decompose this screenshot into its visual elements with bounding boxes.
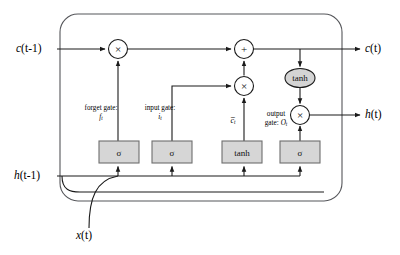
output-tanh-glyph: tanh: [292, 73, 308, 83]
cell-state-input-label: c(t-1): [16, 42, 42, 54]
input-gate-box[interactable]: σ: [152, 141, 192, 163]
candidate-tanh-box[interactable]: tanh: [222, 141, 262, 163]
input-xt-label: x(t): [76, 229, 92, 241]
candidate-label: c̅t: [222, 116, 244, 126]
cell-state-output-label: c(t): [365, 42, 381, 54]
forget-multiply-node[interactable]: ×: [109, 40, 128, 59]
hidden-state-input-arg: (t-1): [20, 169, 40, 181]
cell-state-input-arg: (t-1): [21, 42, 41, 54]
hidden-state-input-label: h(t-1): [14, 169, 40, 181]
output-gate-label-line1: output: [255, 110, 297, 119]
output-gate-box[interactable]: σ: [280, 141, 320, 163]
input-gate-box-glyph: σ: [170, 148, 175, 158]
forget-gate-label-line1: forget gate:: [77, 104, 125, 113]
forget-gate-label-symbol: ft: [77, 113, 125, 122]
input-multiply-node[interactable]: ×: [235, 77, 254, 96]
input-gate-label: input gate: it: [137, 104, 183, 122]
forget-gate-box-glyph: σ: [117, 148, 122, 158]
forget-gate-box[interactable]: σ: [99, 141, 139, 163]
cell-add-glyph: +: [241, 43, 247, 55]
output-gate-label: output gate:Ot: [255, 110, 297, 128]
input-xt-curve-wire: [89, 176, 118, 228]
forget-multiply-glyph: ×: [115, 43, 121, 55]
input-multiply-glyph: ×: [241, 80, 247, 92]
output-gate-box-glyph: σ: [298, 148, 303, 158]
hidden-state-output-arg: (t): [371, 108, 382, 120]
lstm-diagram-svg: σ σ tanh σ × + × tanh: [0, 0, 400, 255]
hidden-state-output-label: h(t): [365, 108, 382, 120]
cell-state-output-arg: (t): [370, 42, 381, 54]
output-multiply-glyph: ×: [297, 109, 303, 121]
input-gate-label-symbol: it: [137, 113, 183, 122]
input-xt-arg: (t): [81, 229, 92, 241]
cell-add-node[interactable]: +: [235, 40, 254, 59]
lstm-diagram-canvas: σ σ tanh σ × + × tanh: [0, 0, 400, 255]
output-tanh-node[interactable]: tanh: [285, 69, 315, 88]
candidate-label-symbol: c̅t: [222, 116, 244, 126]
forget-gate-label: forget gate: ft: [77, 104, 125, 122]
output-gate-label-line2: gate:Ot: [255, 119, 297, 128]
input-gate-label-line1: input gate:: [137, 104, 183, 113]
candidate-tanh-box-glyph: tanh: [234, 148, 250, 158]
